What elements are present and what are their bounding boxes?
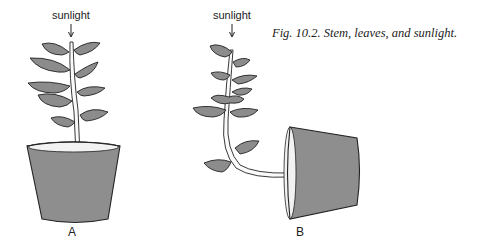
sunlight-arrow-b xyxy=(230,24,235,37)
leaf xyxy=(232,88,252,95)
leaf xyxy=(235,141,259,154)
leaf xyxy=(232,75,257,84)
leaf xyxy=(210,45,232,57)
leaf xyxy=(38,94,72,107)
stem-a xyxy=(70,42,80,155)
plant-a xyxy=(28,24,108,155)
leaf xyxy=(42,43,69,55)
leaf xyxy=(28,82,70,93)
leaf xyxy=(51,117,75,127)
soil-b xyxy=(284,127,296,219)
leaf xyxy=(77,87,105,96)
leaf xyxy=(30,58,70,72)
leaf xyxy=(80,110,108,121)
leaf xyxy=(74,42,100,55)
leaf xyxy=(204,160,231,172)
leaf xyxy=(230,108,258,117)
pot-b xyxy=(284,127,360,219)
leaf xyxy=(233,58,250,67)
leaf xyxy=(75,62,98,78)
leaf xyxy=(211,95,244,104)
pot-a xyxy=(27,142,120,223)
illustration xyxy=(0,0,490,250)
plant-b xyxy=(193,24,290,177)
leaf xyxy=(193,106,226,117)
sunlight-arrow-a xyxy=(69,24,74,37)
